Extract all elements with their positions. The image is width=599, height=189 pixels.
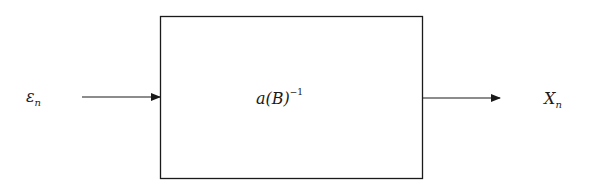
output-label: Xn	[542, 89, 562, 110]
block-label: a(B)−1	[256, 87, 303, 108]
transfer-block	[161, 17, 423, 179]
input-label: εn	[26, 87, 41, 108]
block-diagram: εn a(B)−1 Xn	[0, 0, 599, 189]
